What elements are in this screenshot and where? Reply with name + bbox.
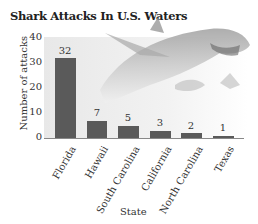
- x-tick-florida: Florida: [50, 144, 78, 181]
- y-tick-10: 10: [26, 106, 42, 117]
- bar-texas: [213, 136, 234, 139]
- y-tick-0: 0: [26, 131, 42, 142]
- bar-label-north-carolina: 2: [179, 120, 203, 131]
- bar-north-carolina: [181, 133, 202, 138]
- bar-label-texas: 1: [211, 122, 235, 133]
- bar-label-south-carolina: 5: [116, 112, 140, 123]
- y-tick-20: 20: [26, 81, 42, 92]
- bar-label-california: 3: [148, 117, 172, 128]
- bar-hawaii: [87, 121, 107, 139]
- x-tick-texas: Texas: [213, 144, 237, 174]
- x-tick-california: California: [139, 144, 174, 193]
- bar-florida: [55, 58, 76, 138]
- shark-illustration-icon: [80, 15, 258, 115]
- x-tick-hawaii: Hawaii: [83, 144, 110, 180]
- x-axis-label: State: [120, 206, 147, 217]
- bar-south-carolina: [118, 126, 139, 139]
- bar-label-hawaii: 7: [85, 107, 109, 118]
- y-tick-30: 30: [26, 56, 42, 67]
- x-axis-line: [44, 138, 244, 139]
- bar-california: [150, 131, 171, 139]
- bar-label-florida: 32: [53, 45, 77, 56]
- y-tick-40: 40: [26, 31, 42, 42]
